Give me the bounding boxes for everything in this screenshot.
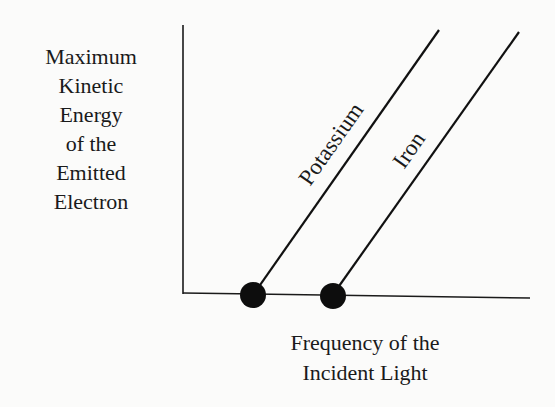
x-label-line: Incident Light: [250, 358, 480, 388]
x-axis-label: Frequency of the Incident Light: [250, 328, 480, 388]
x-axis: [183, 293, 530, 298]
x-label-line: Frequency of the: [250, 328, 480, 358]
potassium-label: Potassium: [294, 98, 369, 190]
potassium-threshold-dot: [240, 282, 266, 308]
iron-threshold-dot: [320, 283, 346, 309]
iron-line: [332, 32, 519, 296]
